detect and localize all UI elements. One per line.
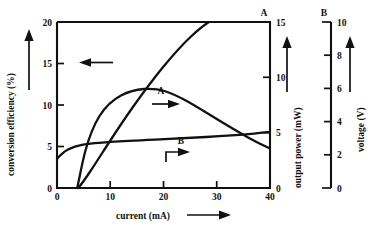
tick-label-b-4: 4 bbox=[337, 117, 342, 127]
tick-label-left-0: 0 bbox=[47, 184, 52, 194]
figure-root: 20 15 10 5 0 conversion efficiency (%) A… bbox=[0, 0, 368, 237]
arrowhead-up-b bbox=[345, 36, 354, 48]
tick-label-left-5: 5 bbox=[47, 142, 52, 152]
tick-label-a-0: 0 bbox=[276, 184, 281, 194]
curve-output-power bbox=[78, 22, 209, 188]
tick-label-b-6: 6 bbox=[337, 84, 342, 94]
y-axis-left-title: conversion efficiency (%) bbox=[6, 73, 17, 176]
tick-label-a-5: 5 bbox=[276, 128, 281, 138]
x-axis-title: current (mA) bbox=[116, 211, 170, 222]
y-axis-a-direction-arrow bbox=[282, 36, 291, 92]
arrowhead-up-a bbox=[282, 36, 291, 48]
arrowhead-left-efficiency bbox=[79, 58, 91, 67]
tick-label-b-10: 10 bbox=[337, 18, 347, 28]
y-axis-b-direction-arrow bbox=[345, 36, 354, 92]
y-axis-a: A 15 10 5 0 output power (mW) bbox=[261, 8, 304, 194]
tick-label-left-10: 10 bbox=[43, 101, 53, 111]
y-axis-left-direction-arrow bbox=[24, 29, 33, 90]
tick-label-x-40: 40 bbox=[265, 192, 275, 202]
arrowhead-right-x bbox=[219, 210, 231, 219]
axis-letter-b: B bbox=[321, 8, 328, 18]
annotation-b-label: B bbox=[178, 136, 185, 146]
plot-box bbox=[57, 22, 270, 188]
tick-label-a-10: 10 bbox=[276, 73, 286, 83]
annotation-efficiency-left-arrow bbox=[79, 58, 113, 67]
tick-label-x-0: 0 bbox=[55, 192, 60, 202]
tick-label-b-0: 0 bbox=[337, 184, 342, 194]
arrowhead-up-left bbox=[24, 29, 33, 41]
tick-label-a-15: 15 bbox=[276, 18, 286, 28]
tick-label-left-15: 15 bbox=[43, 59, 53, 69]
plot-frame bbox=[57, 22, 270, 188]
y-axis-left: 20 15 10 5 0 conversion efficiency (%) bbox=[6, 18, 64, 194]
y-axis-b-title: voltage (V) bbox=[356, 107, 367, 152]
axis-letter-a: A bbox=[261, 8, 268, 18]
y-axis-b: B 10 8 6 4 2 0 voltage (V) bbox=[321, 8, 367, 194]
x-axis-direction-arrow bbox=[187, 210, 231, 219]
tick-label-x-10: 10 bbox=[105, 192, 115, 202]
arrowhead-right-a bbox=[168, 100, 180, 109]
arrowhead-right-b bbox=[178, 148, 190, 157]
tick-label-left-20: 20 bbox=[43, 18, 53, 28]
tick-label-x-30: 30 bbox=[212, 192, 222, 202]
tick-label-b-2: 2 bbox=[337, 150, 342, 160]
tick-label-b-8: 8 bbox=[337, 51, 342, 61]
tick-label-x-20: 20 bbox=[159, 192, 169, 202]
annotation-a-label: A bbox=[158, 86, 165, 96]
y-axis-a-title: output power (mW) bbox=[293, 107, 304, 188]
